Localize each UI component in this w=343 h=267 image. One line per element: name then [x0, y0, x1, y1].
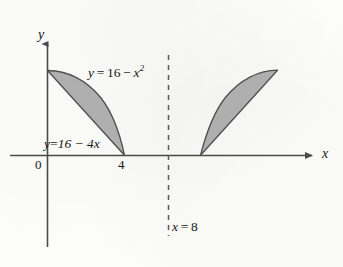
x-tick-label-4: 4 — [118, 158, 125, 171]
shaded-region-right — [201, 70, 278, 155]
vertical-line-label: x = 8 — [172, 220, 198, 234]
figure-canvas: y x 0 4 y = 16 − x2 y=16 − 4x x = 8 — [0, 0, 343, 267]
origin-label: 0 — [35, 158, 42, 171]
parabola-minus: − — [123, 65, 131, 80]
parabola-equation-label: y = 16 − x2 — [88, 64, 144, 79]
line-equals: = — [50, 136, 58, 151]
line-rhs: 16 − 4x — [58, 136, 100, 151]
parabola-rhs-start: 16 — [107, 65, 121, 80]
y-axis-label: y — [38, 28, 44, 42]
line-equation-label: y=16 − 4x — [44, 137, 100, 151]
x-axis-label: x — [322, 147, 328, 161]
vline-rhs: 8 — [191, 219, 198, 234]
parabola-exponent: 2 — [140, 63, 145, 73]
